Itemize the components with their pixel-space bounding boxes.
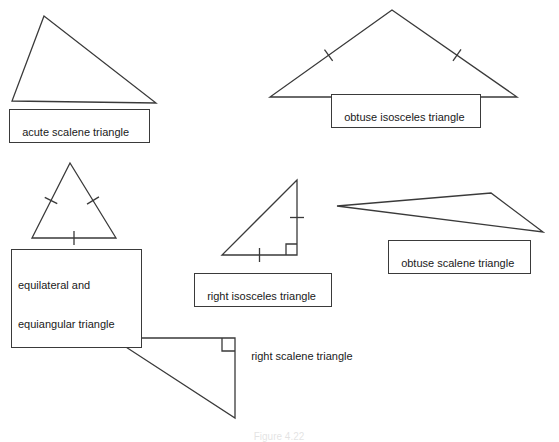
right-isosceles-triangle xyxy=(222,180,304,262)
right-scalene-triangle xyxy=(112,338,235,418)
label-text: acute scalene triangle xyxy=(22,126,129,138)
figure-caption: Figure 4.22 xyxy=(219,431,339,442)
obtuse-isosceles-triangle-outline xyxy=(270,10,517,97)
equilateral-triangle-tick-2 xyxy=(87,197,99,204)
label-acute-scalene-triangle: acute scalene triangle xyxy=(9,109,150,143)
obtuse-isosceles-triangle-tick-1 xyxy=(324,50,332,61)
label-text: right scalene triangle xyxy=(251,350,353,362)
label-obtuse-scalene-triangle: obtuse scalene triangle xyxy=(388,240,531,274)
label-equilateral-triangle: equilateral and equiangular triangle xyxy=(11,249,142,348)
label-text: right isosceles triangle xyxy=(207,290,316,302)
label-text: obtuse scalene triangle xyxy=(401,257,514,269)
right-isosceles-triangle-right-angle-marker xyxy=(286,244,297,255)
right-scalene-triangle-right-angle-marker xyxy=(222,338,235,351)
label-obtuse-isosceles-triangle: obtuse isosceles triangle xyxy=(331,94,481,128)
equilateral-triangle-tick-1 xyxy=(45,197,57,203)
obtuse-isosceles-triangle-tick-2 xyxy=(453,49,461,60)
acute-scalene-triangle-outline xyxy=(12,16,156,103)
label-right-isosceles-triangle: right isosceles triangle xyxy=(194,273,332,307)
obtuse-scalene-triangle-outline xyxy=(337,193,543,232)
equilateral-triangle-outline xyxy=(32,163,116,238)
label-text: obtuse isosceles triangle xyxy=(344,111,464,123)
acute-scalene-triangle xyxy=(12,16,156,103)
equilateral-triangle xyxy=(32,163,116,245)
label-text-line-2: equiangular triangle xyxy=(18,318,135,331)
label-text-line-1: equilateral and xyxy=(18,279,135,292)
obtuse-isosceles-triangle xyxy=(270,10,517,97)
label-right-scalene-triangle: right scalene triangle xyxy=(245,337,353,363)
obtuse-scalene-triangle xyxy=(337,193,543,232)
right-scalene-triangle-outline xyxy=(112,338,235,418)
